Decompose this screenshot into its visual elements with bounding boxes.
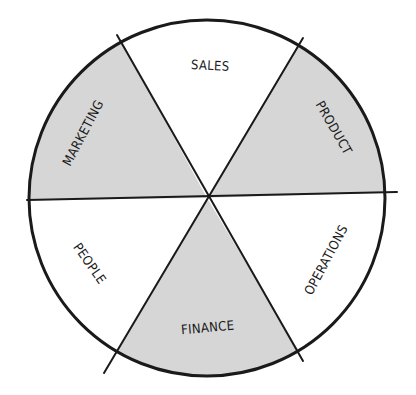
- label-sales: SALES: [191, 57, 230, 74]
- department-wheel-diagram: SALES PRODUCT OPERATIONS FINANCE PEOPLE …: [0, 0, 416, 395]
